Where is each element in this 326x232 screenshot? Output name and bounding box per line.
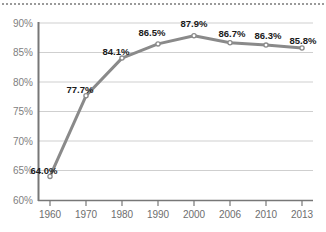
x-tick-label-2000: 2000 — [183, 209, 206, 220]
data-point-markers-group — [48, 34, 304, 179]
y-tick-label-80: 80% — [13, 77, 33, 88]
x-tick-label-1980: 1980 — [111, 209, 134, 220]
x-axis-tick-labels-group: 1960 1970 1980 1990 2000 2006 2010 2013 — [39, 209, 314, 220]
x-tick-label-1970: 1970 — [75, 209, 98, 220]
x-tick-label-2010: 2010 — [255, 209, 278, 220]
data-point-marker — [264, 43, 268, 47]
data-point-marker — [228, 41, 232, 45]
data-point-marker — [156, 42, 160, 46]
x-tick-label-1990: 1990 — [147, 209, 170, 220]
y-tick-label-70: 70% — [13, 136, 33, 147]
data-label-1980: 84.1% — [103, 46, 130, 57]
data-label-1990: 86.5% — [139, 27, 166, 38]
data-point-marker — [300, 46, 304, 50]
data-point-marker — [192, 34, 196, 38]
y-tick-label-75: 75% — [13, 106, 33, 117]
x-tick-label-2013: 2013 — [291, 209, 314, 220]
y-tick-label-60: 60% — [13, 195, 33, 206]
y-axis-tick-labels-group: 90% 85% 80% 75% 70% 65% 60% — [13, 18, 33, 206]
x-tick-label-2006: 2006 — [219, 209, 242, 220]
chart-container: 90% 85% 80% 75% 70% 65% 60% 1960 1970 19… — [0, 0, 326, 232]
y-tick-label-85: 85% — [13, 47, 33, 58]
data-label-1970: 77.7% — [67, 84, 94, 95]
line-chart-plot: 90% 85% 80% 75% 70% 65% 60% 1960 1970 19… — [0, 0, 326, 232]
data-label-2006: 86.7% — [219, 28, 246, 39]
data-label-2013: 85.8% — [290, 35, 317, 46]
data-label-2010: 86.3% — [255, 30, 282, 41]
y-tick-label-90: 90% — [13, 18, 33, 29]
data-label-2000: 87.9% — [181, 18, 208, 29]
data-series-line — [50, 36, 302, 177]
x-tick-label-1960: 1960 — [39, 209, 62, 220]
data-label-1960: 64.0% — [31, 165, 58, 176]
